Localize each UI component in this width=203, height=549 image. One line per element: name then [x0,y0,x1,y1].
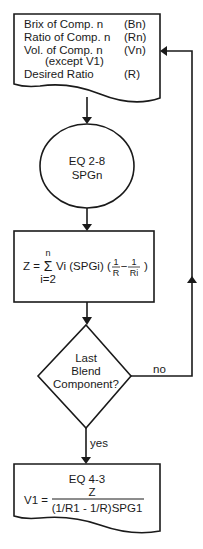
sum-lower-limit: i=2 [40,273,56,285]
arrowhead-ellipse [82,117,92,124]
sum-close-paren: ) [144,260,148,272]
arrowhead-box [82,224,92,231]
minus-sign: − [121,260,128,272]
sum-sigma: Σ [44,258,53,274]
ellipse-line2: SPGn [72,169,103,181]
arrowhead-loop-up [187,276,197,283]
arrowhead-output [81,457,91,464]
output-numerator: Z [88,486,95,498]
yes-label: yes [90,437,108,449]
arrowhead-feedback [160,46,167,56]
output-denominator: (1/R1 - 1/R)SPG1 [52,502,143,514]
sum-body: Vi (SPGi) ( [56,260,111,272]
input-row-vol-symbol: (Vn) [124,44,146,56]
output-lhs: V1 = [24,494,48,506]
frac2-numerator: 1 [131,257,136,267]
decision-line3: Component? [53,378,119,390]
flowchart-diagram: Brix of Comp. n (Bn) Ratio of Comp. n (R… [0,0,203,549]
frac1-numerator: 1 [113,257,118,267]
sum-lhs: Z = [23,260,40,272]
input-row-brix-symbol: (Bn) [124,18,146,30]
output-title: EQ 4-3 [69,473,105,485]
ellipse-line1: EQ 2-8 [69,155,105,167]
no-label: no [153,363,166,375]
decision-line2: Blend [71,365,100,377]
arrowhead-diamond [82,317,92,325]
frac2-denominator: Ri [130,268,139,278]
input-row-desired-label: Desired Ratio [24,68,94,80]
decision-line1: Last [75,352,98,364]
input-row-brix-label: Brix of Comp. n [24,18,103,30]
sum-upper-limit: n [45,248,50,258]
frac1-denominator: R [113,268,120,278]
input-row-ratio-symbol: (Rn) [124,31,147,43]
input-row-desired-symbol: (R) [124,68,140,80]
input-row-ratio-label: Ratio of Comp. n [24,31,110,43]
input-row-except-label: (except V1) [45,55,104,67]
